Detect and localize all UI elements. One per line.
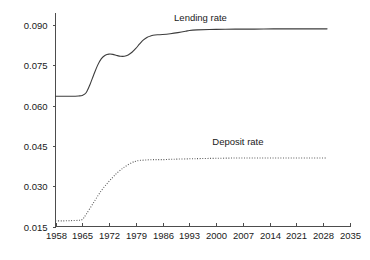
y-tick-label: 0.060 — [24, 101, 48, 112]
x-tick-label: 1979 — [126, 230, 147, 241]
x-tick-label: 2021 — [286, 230, 307, 241]
series-line-lending-rate — [56, 29, 328, 96]
series-annotation-deposit-rate: Deposit rate — [212, 136, 263, 147]
y-axis-labels: 0.0150.0300.0450.0600.0750.090 — [24, 20, 48, 233]
y-tick-label: 0.090 — [24, 20, 48, 31]
y-tick-label: 0.045 — [24, 141, 48, 152]
series-line-deposit-rate — [56, 158, 328, 221]
x-tick-label: 1965 — [72, 230, 93, 241]
x-tick-label: 2007 — [233, 230, 254, 241]
x-axis-labels: 1958196519721979198619932000200720142021… — [46, 230, 361, 241]
x-tick-label: 2000 — [206, 230, 227, 241]
chart-canvas: 0.0150.0300.0450.0600.0750.090 195819651… — [0, 0, 370, 260]
x-tick-label: 1958 — [46, 230, 67, 241]
x-tick-label: 2014 — [260, 230, 281, 241]
x-tick-label: 1986 — [153, 230, 174, 241]
x-tick-label: 1993 — [179, 230, 200, 241]
x-tick-label: 2035 — [340, 230, 361, 241]
x-tick-label: 2028 — [313, 230, 334, 241]
x-tick-label: 1972 — [99, 230, 120, 241]
series-group — [56, 29, 328, 221]
series-annotations: Lending rateDeposit rate — [174, 12, 263, 147]
x-axis-tick-marks — [57, 223, 351, 227]
interest-rate-chart: 0.0150.0300.0450.0600.0750.090 195819651… — [0, 0, 370, 260]
y-tick-label: 0.030 — [24, 181, 48, 192]
y-tick-label: 0.075 — [24, 60, 48, 71]
y-tick-label: 0.015 — [24, 222, 48, 233]
series-annotation-lending-rate: Lending rate — [174, 12, 227, 23]
